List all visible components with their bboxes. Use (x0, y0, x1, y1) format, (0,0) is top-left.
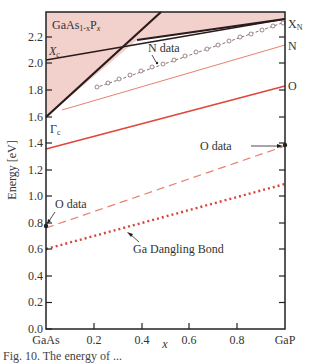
y-tick-labels: 0.0 0.2 0.4 0.6 0.8 1.0 1.2 1.4 1.6 1.8 … (28, 30, 43, 336)
n-data-arrow (152, 55, 156, 62)
y-axis-label: Energy [eV] (5, 140, 19, 199)
gamma-label: Γc (50, 122, 61, 137)
n-data-label: N data (148, 41, 180, 55)
svg-text:0.8: 0.8 (230, 333, 245, 347)
svg-text:0.2: 0.2 (28, 295, 43, 309)
svg-text:0.4: 0.4 (135, 333, 150, 347)
o-data-right-label: O data (200, 139, 232, 153)
svg-text:1.0: 1.0 (28, 189, 43, 203)
o-line (46, 86, 285, 149)
svg-text:0.6: 0.6 (182, 333, 197, 347)
svg-text:1.8: 1.8 (28, 83, 43, 97)
ga-dangling-bond-label: Ga Dangling Bond (133, 242, 224, 256)
svg-text:2.2: 2.2 (28, 30, 43, 44)
svg-text:1.2: 1.2 (28, 163, 43, 177)
svg-text:2.0: 2.0 (28, 56, 43, 70)
svg-text:GaP: GaP (275, 333, 296, 347)
svg-text:0.8: 0.8 (28, 216, 43, 230)
o-data-left-arrow (49, 212, 55, 221)
ga-dangling-bond-line (46, 184, 285, 249)
svg-text:1.6: 1.6 (28, 110, 43, 124)
o-data-left-label: O data (55, 197, 87, 211)
material-label: GaAs1-xPx (52, 18, 101, 33)
right-label-n: N (288, 39, 297, 53)
n-data-arrow-head (156, 62, 158, 64)
right-label-o: O (288, 79, 297, 93)
figure-caption: Fig. 10. The energy of ... (3, 349, 122, 364)
right-label-xn: XN (288, 17, 303, 32)
svg-text:0.6: 0.6 (28, 242, 43, 256)
svg-text:1.4: 1.4 (28, 136, 43, 150)
svg-text:0.2: 0.2 (87, 333, 102, 347)
o-dashed-line (46, 146, 285, 228)
x-axis-label: x (161, 337, 168, 351)
svg-text:GaAs: GaAs (32, 333, 60, 347)
svg-text:0.4: 0.4 (28, 269, 43, 283)
